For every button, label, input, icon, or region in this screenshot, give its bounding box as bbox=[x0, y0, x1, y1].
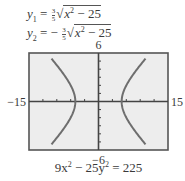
xmax-label: 15 bbox=[171, 95, 183, 109]
hyperbola-equation: 9x2 − 25y2 = 225 bbox=[0, 160, 185, 176]
ymax-label: 6 bbox=[96, 38, 102, 52]
xmin-label: −15 bbox=[7, 95, 26, 109]
graph-window: 6 −6 −15 15 bbox=[0, 0, 185, 181]
